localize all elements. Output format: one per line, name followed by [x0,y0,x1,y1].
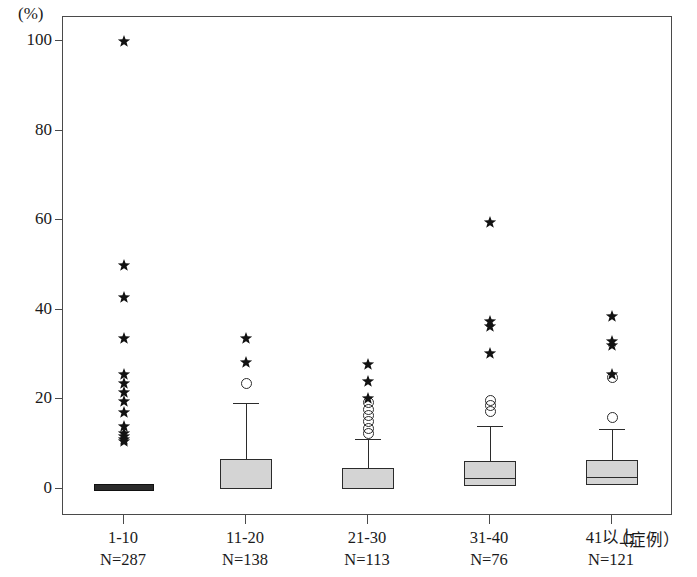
x-axis-category-label: 31-40 [419,527,559,549]
x-axis-tick [123,515,124,524]
outlier-star-marker [606,339,619,352]
x-axis-tick-label: 21-30N=113 [297,527,437,571]
x-axis-count-label: N=121 [541,549,681,571]
whisker-cap-upper [599,429,625,430]
x-axis-category-label: 1-10 [53,527,193,549]
y-axis-tick-label: 20 [4,388,52,408]
x-axis-tick [367,515,368,524]
outlier-circle-marker [607,412,618,423]
x-axis-count-label: N=138 [175,549,315,571]
y-axis-unit-label: (%) [18,4,43,24]
x-axis-count-label: N=113 [297,549,437,571]
boxplot-group [63,17,671,514]
x-axis-category-label: 11-20 [175,527,315,549]
x-axis-count-label: N=76 [419,549,559,571]
x-axis-tick [245,515,246,524]
outlier-star-marker [606,368,619,381]
y-axis-tick-label: 100 [4,30,52,50]
x-axis-tick-label: 31-40N=76 [419,527,559,571]
x-axis-unit-label: （症例） [612,527,680,551]
median-line [586,477,638,478]
x-axis-count-label: N=287 [53,549,193,571]
x-axis-tick [611,515,612,524]
outlier-star-marker [606,310,619,323]
whisker-upper [612,429,613,460]
x-axis-tick [489,515,490,524]
y-axis-tick-label: 40 [4,299,52,319]
y-axis-tick-label: 80 [4,120,52,140]
x-axis-category-label: 21-30 [297,527,437,549]
plot-area-frame [62,16,672,515]
box [586,460,638,485]
y-axis-tick-label: 60 [4,209,52,229]
boxplot-figure: (%) 020406080100 1-10N=28711-20N=13821-3… [0,0,697,577]
x-axis-tick-label: 1-10N=287 [53,527,193,571]
y-axis-tick-label: 0 [4,478,52,498]
x-axis-tick-label: 11-20N=138 [175,527,315,571]
